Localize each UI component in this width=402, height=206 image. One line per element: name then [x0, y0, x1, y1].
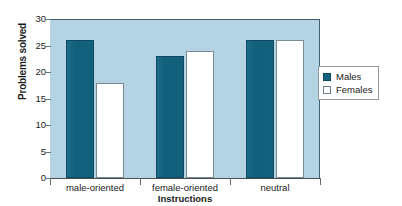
- legend-item-label: Females: [336, 84, 372, 95]
- bar-chart: Problems solved 051015202530 male-orient…: [0, 0, 402, 206]
- x-axis-tick-mark: [320, 178, 321, 185]
- empty-square-icon: [323, 86, 331, 94]
- y-axis-tick-mark: [45, 125, 51, 126]
- x-axis-tick-label: neutral: [260, 182, 289, 193]
- x-axis-tick-mark: [140, 178, 141, 185]
- y-axis-tick-label: 10: [26, 120, 46, 130]
- bar-females-male-oriented: [96, 83, 124, 178]
- filled-square-icon: [323, 73, 331, 81]
- y-axis-tick-label: 15: [26, 94, 46, 104]
- y-axis-tick-label: 30: [26, 14, 46, 24]
- legend-item-females[interactable]: Females: [323, 83, 372, 96]
- bar-males-neutral: [246, 40, 274, 178]
- legend-item-males[interactable]: Males: [323, 70, 372, 83]
- x-axis-tick-label: male-oriented: [66, 182, 124, 193]
- y-axis-tick-label: 25: [26, 41, 46, 51]
- y-axis-tick-mark: [45, 99, 51, 100]
- legend-item-label: Males: [336, 71, 361, 82]
- bar-males-female-oriented: [156, 56, 184, 178]
- y-axis-tick-mark: [45, 72, 51, 73]
- y-axis-tick-mark: [45, 46, 51, 47]
- chart-legend: MalesFemales: [318, 66, 379, 100]
- x-axis-tick-label: female-oriented: [152, 182, 218, 193]
- y-axis-tick-mark: [45, 19, 51, 20]
- y-axis-tick-label: 20: [26, 67, 46, 77]
- x-axis-line: [50, 178, 320, 179]
- y-axis-tick-label: 5: [26, 147, 46, 157]
- bar-females-female-oriented: [186, 51, 214, 178]
- bar-males-male-oriented: [66, 40, 94, 178]
- bar-females-neutral: [276, 40, 304, 178]
- x-axis-tick-mark: [50, 178, 51, 185]
- plot-area: [50, 19, 320, 178]
- y-axis-tick-label: 0: [26, 173, 46, 183]
- x-axis-tick-mark: [230, 178, 231, 185]
- y-axis-tick-mark: [45, 152, 51, 153]
- x-axis-title: Instructions: [50, 193, 320, 204]
- y-axis-tick-labels: 051015202530: [26, 14, 46, 178]
